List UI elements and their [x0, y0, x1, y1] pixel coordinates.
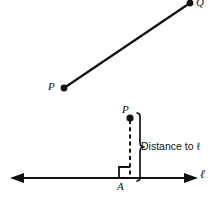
segment-pq-line	[64, 3, 190, 88]
right-angle-marker	[119, 167, 130, 178]
point-p-dot-top	[61, 85, 68, 92]
label-distance-to-line: Distance to ℓ	[141, 141, 200, 152]
top-diagram-group	[61, 0, 194, 91]
label-point-p-top: P	[48, 81, 55, 92]
geometry-figure: P Q P A ℓ Distance to ℓ	[0, 0, 220, 203]
line-ell-arrow-right	[184, 173, 198, 183]
label-point-p-bottom: P	[122, 104, 129, 115]
line-ell-arrow-left	[10, 173, 24, 183]
label-point-q-top: Q	[196, 0, 204, 8]
label-point-a: A	[117, 181, 124, 192]
figure-canvas	[0, 0, 220, 203]
label-line-ell: ℓ	[200, 168, 205, 180]
point-p-dot-bottom	[126, 114, 133, 121]
